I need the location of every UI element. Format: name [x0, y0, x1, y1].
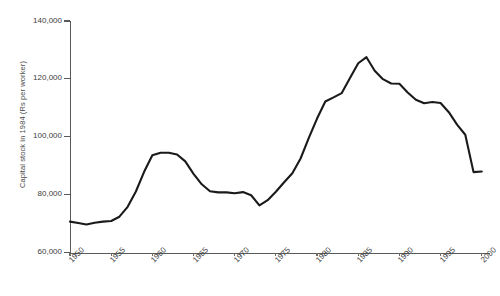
series-line-capital-stock: [70, 57, 482, 224]
series-plot-area: [0, 0, 500, 296]
chart-container: Capital stock in 1984 (Rs per worker) 60…: [0, 0, 500, 296]
